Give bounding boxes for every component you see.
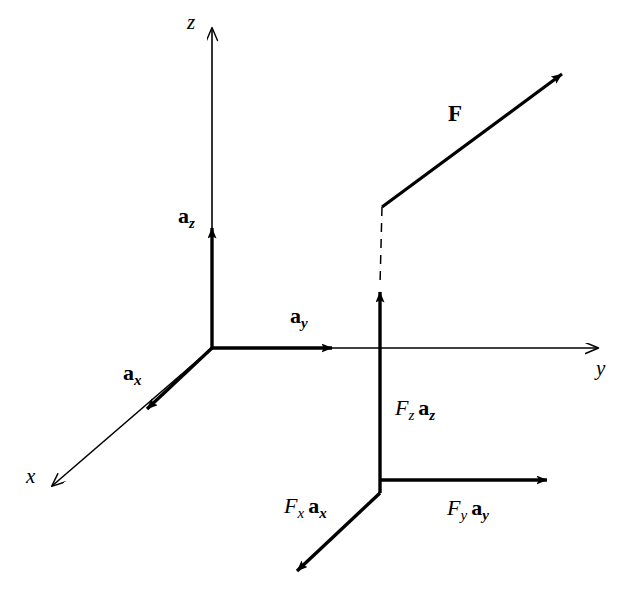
axis-label-z: z: [187, 12, 195, 33]
dashed-projection-line: [380, 207, 382, 285]
unit-vector-ax: [147, 348, 212, 409]
axis-label-x: x: [26, 466, 35, 487]
component-label-fz-az: Fzaz: [395, 397, 435, 423]
unit-vector-subscript-az: z: [189, 215, 195, 231]
unit-vector-symbol-ax: a: [123, 360, 134, 385]
component-unit-az: az: [418, 395, 435, 420]
component-scalar-fy: Fy: [447, 495, 467, 520]
axis-label-y: y: [596, 358, 605, 379]
component-label-fx-ax: Fxax: [284, 495, 327, 521]
unit-vector-label-ax: ax: [123, 362, 142, 388]
component-scalar-fz: Fz: [395, 395, 414, 420]
component-unit-ax: ax: [308, 493, 327, 518]
component-label-fy-ay: Fyay: [447, 497, 489, 523]
unit-vector-symbol-az: a: [178, 203, 189, 228]
component-scalar-fx: Fx: [284, 493, 304, 518]
unit-vector-symbol-ay: a: [290, 303, 301, 328]
unit-vector-subscript-ax: x: [134, 372, 142, 388]
unit-vector-label-ay: ay: [290, 305, 308, 331]
unit-vector-subscript-ay: y: [301, 315, 308, 331]
unit-vector-label-az: az: [178, 205, 195, 231]
resultant-force-label: F: [448, 102, 462, 125]
component-unit-ay: ay: [471, 495, 489, 520]
vector-decomposition-diagram: x y z ax ay az F Fxax Fyay Fzaz: [0, 0, 640, 609]
resultant-force-vector: [382, 74, 562, 207]
